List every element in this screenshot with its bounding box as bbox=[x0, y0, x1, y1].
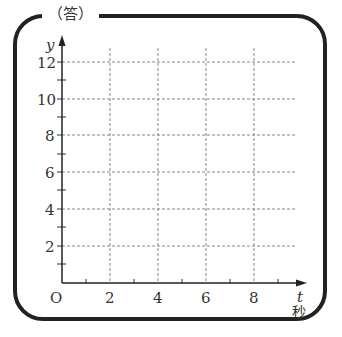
x-axis-label: t bbox=[297, 289, 303, 305]
axes bbox=[62, 42, 300, 283]
x-tick-4: 4 bbox=[153, 290, 163, 306]
grid-lines bbox=[62, 48, 296, 283]
y-tick-10: 10 bbox=[37, 92, 56, 108]
y-axis-arrow-icon bbox=[59, 35, 66, 46]
x-axis-arrow-icon bbox=[296, 280, 307, 287]
x-axis-unit: 秒 bbox=[292, 304, 306, 320]
y-tick-4: 4 bbox=[45, 202, 55, 218]
y-tick-6: 6 bbox=[45, 165, 55, 181]
origin-label: O bbox=[50, 290, 62, 306]
x-tick-2: 2 bbox=[105, 290, 115, 306]
y-axis-label: y bbox=[46, 37, 54, 53]
x-tick-6: 6 bbox=[201, 290, 211, 306]
y-tick-8: 8 bbox=[45, 128, 55, 144]
x-tick-8: 8 bbox=[249, 290, 259, 306]
y-tick-12: 12 bbox=[37, 55, 56, 71]
y-tick-2: 2 bbox=[45, 239, 55, 255]
